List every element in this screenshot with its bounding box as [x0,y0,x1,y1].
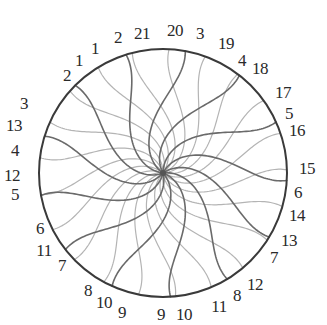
rim-label: 12 [247,276,263,293]
rim-label: 17 [275,84,291,101]
rim-label: 15 [299,160,315,177]
rim-label: 6 [294,184,302,201]
rim-label: 13 [281,232,297,249]
dark-spiral-3 [163,168,269,238]
rim-label: 20 [167,22,183,39]
spiral-diagram: 2112212031941817516156141371281110991087… [0,0,327,325]
rim-label: 11 [36,242,51,259]
rim-label: 10 [96,294,112,311]
rim-label: 6 [36,220,44,237]
rim-label: 19 [218,35,234,52]
rim-label: 9 [157,306,165,323]
rim-label: 21 [134,25,150,42]
light-spiral-18 [74,171,163,260]
rim-label: 2 [114,29,122,46]
rim-label: 9 [118,304,126,321]
dark-spiral-12 [149,51,185,173]
rim-label: 5 [285,105,293,122]
rim-label: 18 [252,60,268,77]
rim-label: 8 [233,287,241,304]
light-spiral-13 [160,173,243,268]
center-point [160,170,166,176]
light-spiral-10 [163,169,287,192]
rim-label: 3 [20,95,28,112]
rim-label: 1 [75,52,83,69]
rim-label: 5 [11,186,19,203]
dark-spiral-1 [163,122,276,173]
rim-label: 2 [63,67,71,84]
rim-label: 7 [270,249,278,266]
rim-label: 14 [289,207,305,224]
rim-label: 13 [6,117,22,134]
rim-label: 12 [4,167,20,184]
rim-label: 8 [84,282,92,299]
spiral-diagram-figure [0,0,327,325]
rim-label: 1 [91,40,99,57]
rim-label: 16 [289,122,305,139]
rim-label: 3 [196,25,204,42]
rim-label: 4 [238,52,246,69]
light-spiral-8 [163,101,264,178]
rim-label: 11 [211,298,226,315]
rim-label: 7 [58,257,66,274]
light-spiral-3 [98,67,168,173]
rim-label: 4 [11,142,19,159]
rim-label: 10 [176,306,192,323]
